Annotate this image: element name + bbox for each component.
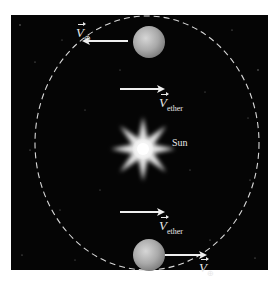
earth-bottom-velocity-label: V⊕ [199, 258, 214, 278]
sun-starburst-icon [111, 117, 175, 181]
planet-icon [133, 239, 165, 271]
ether-bottom-label: Vether [159, 216, 183, 236]
diagram-canvas [0, 0, 280, 289]
sun-label: Sun [172, 137, 188, 148]
ether-top-label: Vether [159, 93, 183, 113]
earth-top-velocity-label: V⊕ [76, 23, 91, 43]
planet-icon [133, 26, 165, 58]
